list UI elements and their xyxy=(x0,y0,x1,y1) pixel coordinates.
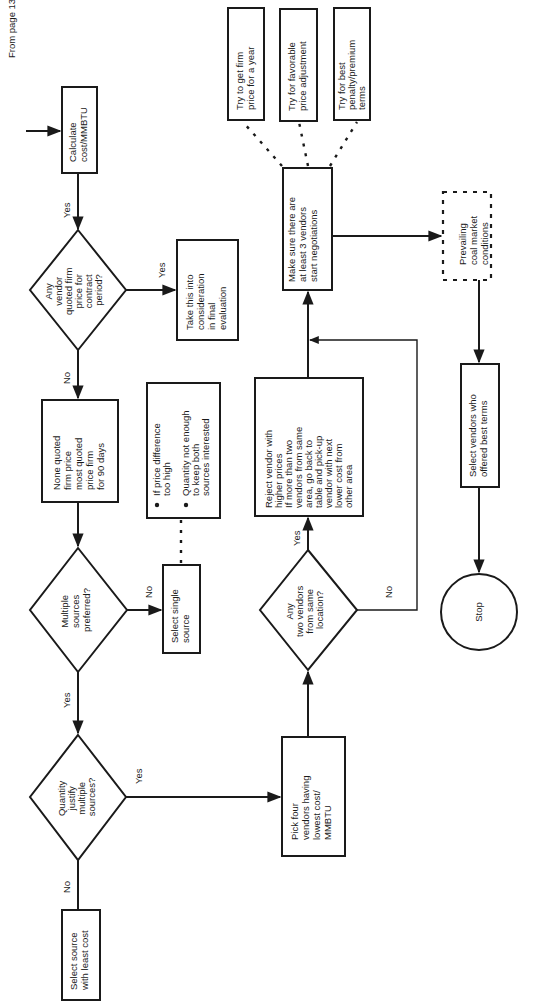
yes-label: Yes xyxy=(291,530,302,546)
entry-label: From page 133 xyxy=(6,0,17,58)
yes-label: Yes xyxy=(156,262,167,278)
no-label: No xyxy=(143,586,154,598)
svg-text:Try to get firm price fo: Try to get firm price for a year xyxy=(234,47,256,110)
no-label: No xyxy=(383,586,394,598)
select-single-source-box: Select single source xyxy=(163,565,200,653)
select-least-cost-box: Select source with least cost xyxy=(62,910,100,1000)
svg-text:Try for favorable price: Try for favorable price adjustment xyxy=(286,40,308,111)
yes-label: Yes xyxy=(61,202,72,218)
dotted-connector xyxy=(299,122,308,166)
svg-text:Select vendors who offer: Select vendors who offered best terms xyxy=(467,391,489,477)
yes-label: Yes xyxy=(133,768,144,784)
dotted-connector xyxy=(330,122,357,166)
no-label: No xyxy=(61,372,72,384)
make-sure-three-vendors-box: Make sure there are at least 3 vendors s… xyxy=(283,168,332,290)
bullet-icon xyxy=(155,503,159,507)
reject-vendor-box: Reject vendor with higher prices If more… xyxy=(255,378,363,516)
svg-text:Multiple sources p: Multiple sources preferred? xyxy=(59,588,92,632)
try-penalty-terms-box: Try for best penalty/premium terms xyxy=(334,8,370,120)
try-firm-price-box: Try to get firm price for a year xyxy=(228,8,264,120)
dotted-connector xyxy=(243,122,282,166)
none-quoted-box: None quoted firm price most quoted price… xyxy=(42,400,118,502)
calculate-box: Calculate cost/MMBTU xyxy=(62,87,97,173)
no-label: No xyxy=(61,881,72,893)
svg-text:Quantity justify m: Quantity justify multiple sources? xyxy=(56,778,97,817)
svg-text:If price difference too: If price difference too high Quantity no… xyxy=(151,408,211,496)
reasons-note-box: If price difference too high Quantity no… xyxy=(147,383,220,518)
bullet-icon xyxy=(184,503,188,507)
decision-quantity-justify-multiple: Quantity justify multiple sources? xyxy=(30,735,126,860)
stop-terminal: Stop xyxy=(441,574,517,650)
prevailing-market-box: Prevailing coal market conditions xyxy=(443,192,491,280)
flowchart-canvas: From page 133 Calculate cost/MMBTU Yes A… xyxy=(0,0,536,1002)
pick-four-vendors-box: Pick four vendors having lowest cost/ MM… xyxy=(282,737,345,856)
yes-label: Yes xyxy=(61,692,72,708)
decision-any-two-same-location: Any two vendors from same location? xyxy=(260,550,357,670)
decision-any-vendor-firm-price: Any vendor quoted firm price for contrac… xyxy=(30,230,126,350)
svg-text:Select source with least: Select source with least cost xyxy=(68,930,90,991)
try-price-adjustment-box: Try for favorable price adjustment xyxy=(280,9,317,121)
take-into-consideration-box: Take this into consideration in final ev… xyxy=(177,240,238,340)
svg-text:Stop: Stop xyxy=(473,602,484,622)
select-best-terms-box: Select vendors who offered best terms xyxy=(461,364,499,487)
decision-multiple-sources-preferred: Multiple sources preferred? xyxy=(30,548,127,672)
